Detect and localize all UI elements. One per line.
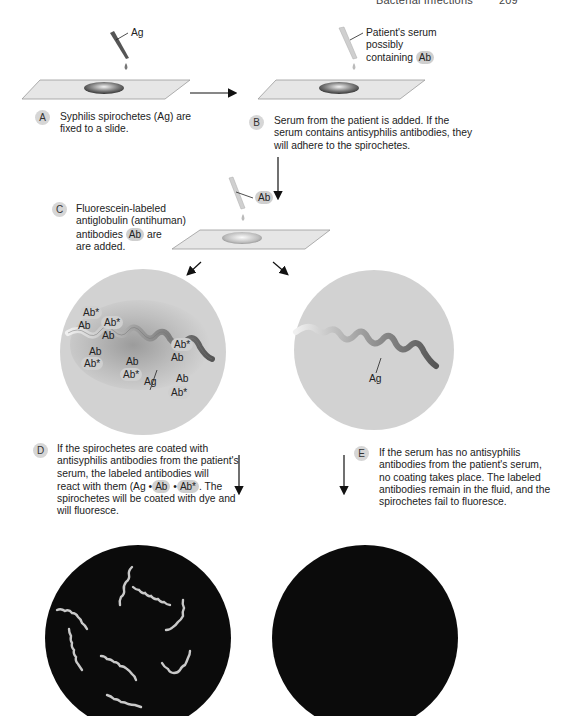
slide-c xyxy=(172,177,330,249)
caption-d: If the spirochetes are coated with antis… xyxy=(57,443,239,518)
darkfield-fluorescent-view xyxy=(45,545,231,716)
caption-a-line: Syphilis spirochetes (Ag) are xyxy=(60,111,191,123)
ag-label: Ag xyxy=(369,373,382,385)
ab-star-label: Ab* xyxy=(101,316,123,329)
caption-b: Serum from the patient is added. If the … xyxy=(274,115,472,152)
caption-d-text: react with them (Ag • xyxy=(57,481,152,492)
caption-c-line: Fluorescein-labeled xyxy=(76,203,186,215)
pipette-c-ab-badge: Ab xyxy=(255,191,273,204)
caption-c: Fluorescein-labeled antiglobulin (antihu… xyxy=(76,203,186,253)
ab-star-label: Ab* xyxy=(171,338,193,351)
pipette-b-label: Patient's serum possibly containing Ab xyxy=(366,27,437,64)
caption-a: Syphilis spirochetes (Ag) are fixed to a… xyxy=(60,111,191,136)
pipette-b-label-line: Patient's serum xyxy=(366,27,437,39)
caption-e-line: antibodies from the patient's serum, xyxy=(379,459,550,471)
ab-label: Ab xyxy=(126,356,139,368)
magnified-negative-view xyxy=(294,270,454,430)
ab-badge: Ab xyxy=(152,480,170,493)
ag-label: Ag xyxy=(144,376,157,388)
step-badge-c: C xyxy=(52,202,67,217)
pipette-b-label-line: containing xyxy=(366,52,413,63)
caption-c-text: are xyxy=(147,229,162,240)
ab-badge: Ab xyxy=(126,228,144,241)
caption-b-line: will adhere to the spirochetes. xyxy=(274,140,472,152)
caption-d-line: spirochetes will be coated with dye and xyxy=(57,493,239,505)
ab-star-label: Ab* xyxy=(120,368,142,381)
ab-star-label: Ab* xyxy=(168,386,190,399)
ab-label: Ab xyxy=(176,373,189,385)
ab-star-label: Ab* xyxy=(80,306,102,319)
caption-c-line: antiglobulin (antihuman) xyxy=(76,215,186,227)
ab-badge: Ab xyxy=(416,51,434,64)
pipette-b-label-line: possibly xyxy=(366,39,437,51)
caption-d-text: . The xyxy=(199,481,222,492)
slide-a xyxy=(22,31,190,99)
caption-e: If the serum has no antisyphilis antibod… xyxy=(379,447,550,508)
caption-e-line: antibodies remain in the fluid, and the xyxy=(379,484,550,496)
ab-label: Ab xyxy=(78,320,91,332)
caption-b-line: Serum from the patient is added. If the xyxy=(274,115,472,127)
caption-d-line: antisyphilis antibodies from the patient… xyxy=(57,455,239,467)
ab-label: Ab xyxy=(171,352,184,364)
pipette-a-label: Ag xyxy=(131,27,144,39)
caption-e-line: If the serum has no antisyphilis xyxy=(379,447,550,459)
step-badge-a: A xyxy=(35,110,50,125)
caption-c-text: antibodies xyxy=(76,229,123,240)
caption-d-line: If the spirochetes are coated with xyxy=(57,443,239,455)
caption-b-line: serum contains antisyphilis antibodies, … xyxy=(274,127,472,139)
darkfield-negative-view xyxy=(272,545,458,716)
caption-e-line: no coating takes place. The labeled xyxy=(379,472,550,484)
ab-star-label: Ab* xyxy=(81,357,103,370)
caption-d-line: will fluoresce. xyxy=(57,505,239,517)
step-badge-b: B xyxy=(249,115,264,130)
ab-star-badge: Ab* xyxy=(177,480,199,493)
caption-a-line: fixed to a slide. xyxy=(60,123,191,135)
step-badge-e: E xyxy=(354,446,369,461)
step-badge-d: D xyxy=(33,443,48,458)
ab-label: Ab xyxy=(102,330,115,342)
caption-e-line: spirochetes fail to fluoresce. xyxy=(379,496,550,508)
magnified-positive-view xyxy=(60,269,226,435)
caption-d-line: serum, the labeled antibodies will xyxy=(57,468,239,480)
caption-c-line: are added. xyxy=(76,241,186,253)
